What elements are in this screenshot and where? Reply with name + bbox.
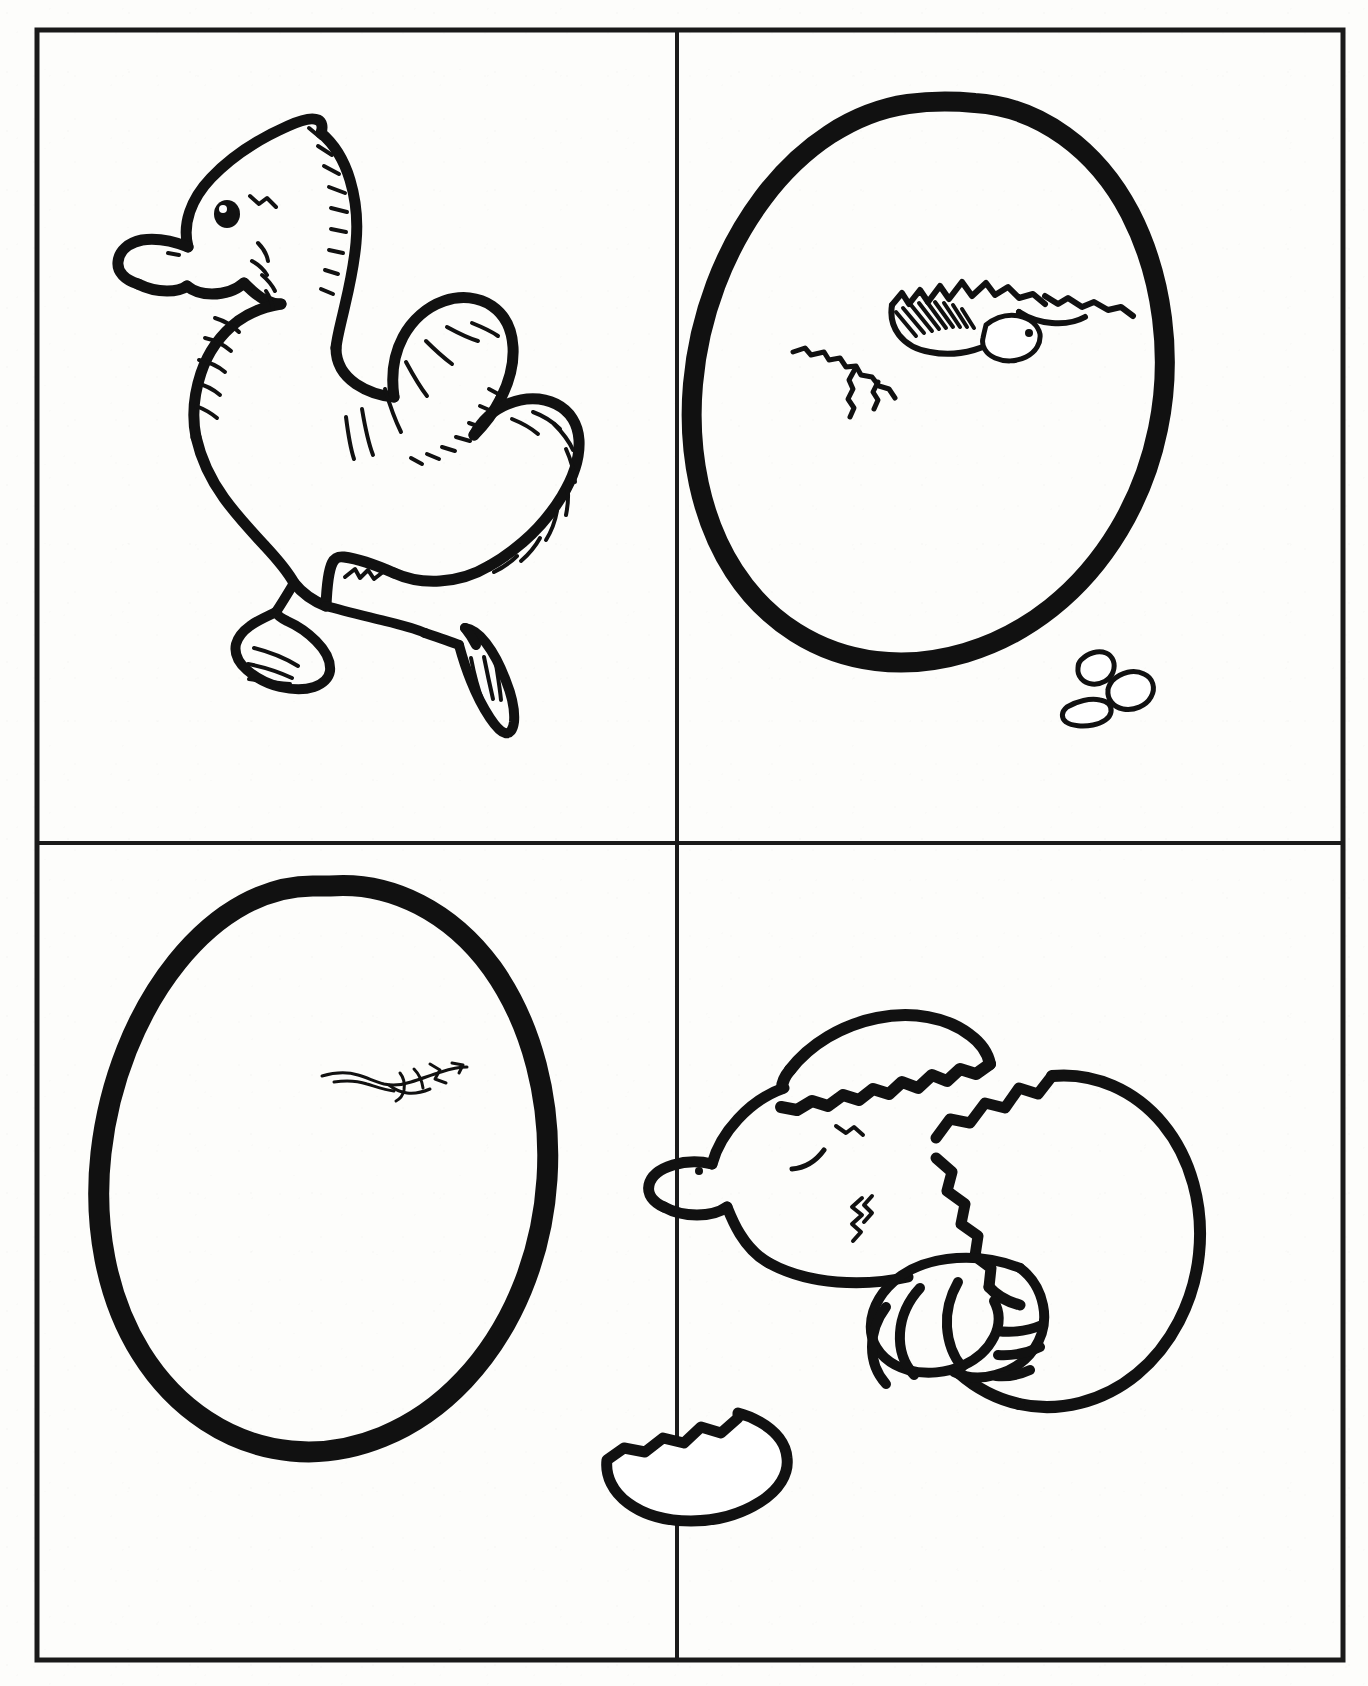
egg-shell-flap-dot [1025, 329, 1033, 337]
hatching-duckling-brow-squiggle [836, 1126, 863, 1135]
egg-first-hairline-crack [322, 1063, 467, 1101]
hatching-egg-torn-rim [936, 1076, 1052, 1305]
hatching-duckling-head-outline [649, 1088, 908, 1283]
hatching-duckling-wing [871, 1258, 1020, 1384]
duckling-front-foot-toe-lines [248, 648, 298, 684]
artwork-canvas [0, 0, 1368, 1686]
shell-chip-2 [1108, 672, 1154, 710]
egg-outline-whole [99, 885, 548, 1451]
hatching-duckling-nostril [695, 1167, 703, 1175]
panel-3-egg-whole [99, 885, 548, 1451]
loose-shell-fragment [607, 1413, 788, 1521]
panel-1-duckling-walking [118, 119, 579, 733]
shell-chip-3 [1062, 699, 1111, 726]
shell-chip-1 [1078, 652, 1114, 684]
coloring-page: Duckling Hatching Sequence Hatched duckl… [0, 0, 1368, 1686]
egg-hairline-crack [793, 348, 895, 417]
duckling-eye [214, 200, 240, 228]
egg-outline-cracked [692, 102, 1165, 663]
panel-2-egg-cracked [692, 102, 1165, 726]
duckling-body-outline [118, 119, 394, 606]
egg-shell-flap [983, 315, 1041, 360]
hatching-duckling-cheek-squiggle [852, 1196, 872, 1241]
egg-shell-chips [1062, 652, 1153, 726]
hatching-egg-top-cap [781, 1015, 990, 1110]
hatching-duckling-closed-eye [792, 1150, 824, 1169]
panel-4-duckling-hatching [607, 1015, 1200, 1521]
